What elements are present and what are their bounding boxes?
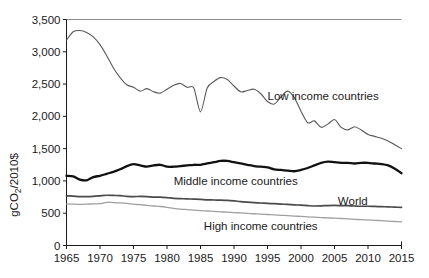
x-tick-labels: 1965197019751980198519901995200020052010… [54,252,415,264]
y-tick-label: 2,500 [32,78,61,90]
y-tick-label: 1,000 [32,175,61,187]
x-tick-label: 2005 [322,252,348,264]
x-tick-label: 1975 [121,252,147,264]
x-tick-label: 1980 [154,252,180,264]
co2-intensity-line-chart: 05001,0001,5002,0002,5003,0003,500 19651… [0,0,429,278]
x-tick-label: 2015 [389,252,415,264]
x-tick-label: 1985 [188,252,214,264]
y-tick-label: 500 [41,207,60,219]
y-tick-label: 1,500 [32,143,61,155]
y-axis [63,20,67,246]
series-label: World [338,195,368,207]
y-tick-label: 3,500 [32,14,61,26]
x-tick-label: 1970 [87,252,113,264]
series-label: Middle income countries [174,175,298,187]
x-tick-label: 2010 [355,252,381,264]
y-tick-label: 0 [54,240,60,252]
series-label: Low income countries [268,90,379,102]
series-label: High income countries [204,220,318,232]
chart-figure: 05001,0001,5002,0002,5003,0003,500 19651… [0,0,429,278]
x-tick-label: 1990 [221,252,247,264]
data-series-lines [67,30,402,221]
x-axis [67,242,402,250]
y-tick-labels: 05001,0001,5002,0002,5003,0003,500 [32,14,61,252]
y-axis-title: gCO2/2010$ [8,153,23,217]
x-tick-label: 1965 [54,252,80,264]
y-axis-title-group: gCO2/2010$ [8,153,23,217]
x-tick-label: 2000 [288,252,314,264]
y-tick-label: 3,000 [32,46,61,58]
x-tick-label: 1995 [255,252,281,264]
y-tick-label: 2,000 [32,110,61,122]
